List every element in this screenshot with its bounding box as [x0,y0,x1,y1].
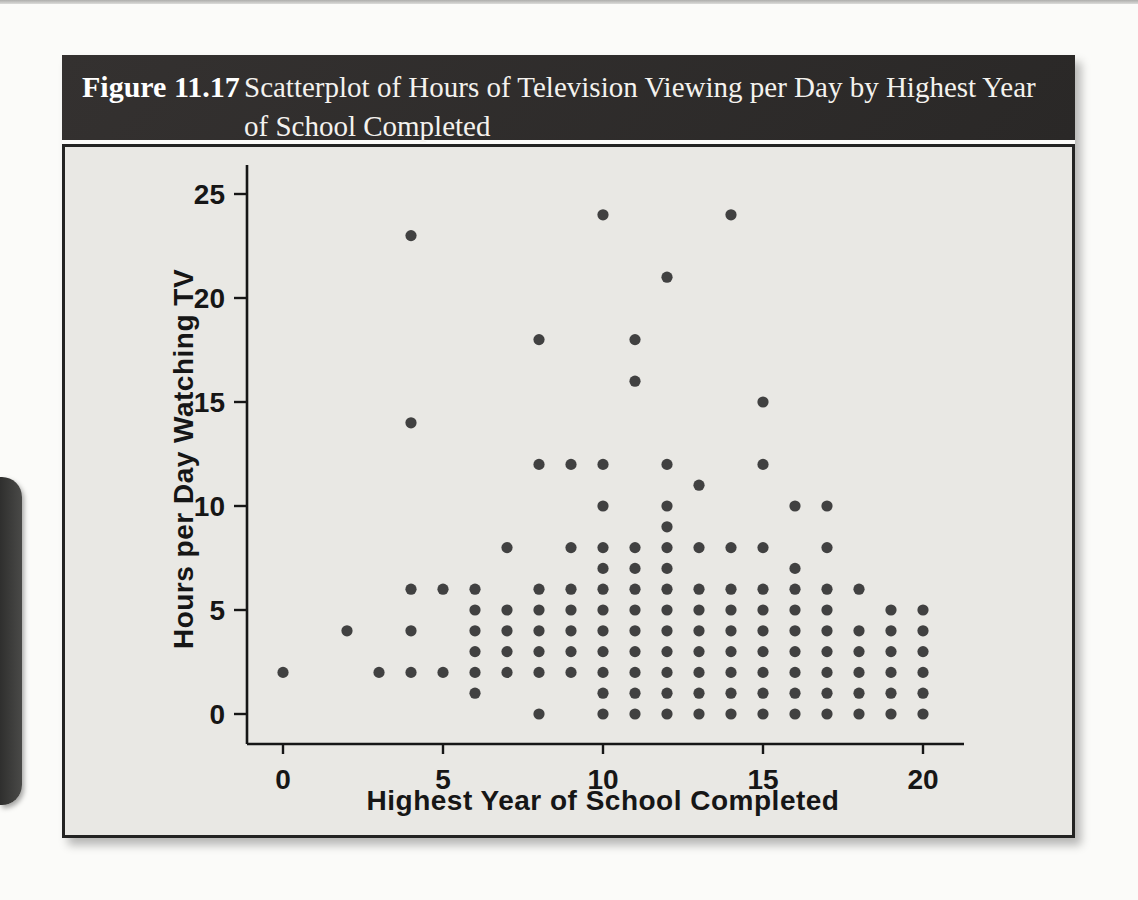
data-point [469,604,480,615]
y-tick-label: 25 [194,179,225,210]
data-point [885,708,896,719]
figure-panel: Figure 11.17 Scatterplot of Hours of Tel… [62,55,1075,838]
data-point [789,667,800,678]
data-point [917,708,928,719]
data-point [757,459,768,470]
chart-area: 051015202505101520 Highest Year of Schoo… [62,144,1075,838]
data-point [661,521,672,532]
data-point [277,667,288,678]
data-point [629,688,640,699]
data-point [757,542,768,553]
data-point [853,667,864,678]
data-point [533,604,544,615]
data-point [533,334,544,345]
data-point [469,646,480,657]
data-point [501,542,512,553]
x-tick-label: 20 [907,764,938,795]
figure-header: Figure 11.17 Scatterplot of Hours of Tel… [62,55,1075,140]
data-point [853,584,864,595]
scatterplot: 051015202505101520 [65,147,1072,835]
data-point [405,417,416,428]
data-point [661,646,672,657]
data-point [725,584,736,595]
data-point [565,459,576,470]
data-point [821,625,832,636]
data-point [661,708,672,719]
y-axis-title: Hours per Day Watching TV [168,247,200,671]
data-point [597,584,608,595]
data-point [789,646,800,657]
data-point [597,542,608,553]
data-point [821,646,832,657]
data-point [885,604,896,615]
data-point [533,646,544,657]
data-point [565,646,576,657]
data-point [405,625,416,636]
data-point [629,604,640,615]
y-tick-label: 5 [209,595,225,626]
data-point [661,542,672,553]
data-point [533,708,544,719]
data-point [629,708,640,719]
data-point [757,646,768,657]
data-point [661,604,672,615]
data-point [469,584,480,595]
page-edge-tab [0,477,22,805]
data-point [533,584,544,595]
data-point [629,584,640,595]
data-point [661,584,672,595]
data-point [629,376,640,387]
data-point [789,604,800,615]
data-point [693,542,704,553]
data-point [661,500,672,511]
data-point [597,646,608,657]
data-point [917,604,928,615]
data-point [757,604,768,615]
data-point [501,625,512,636]
data-point [789,625,800,636]
data-point [565,625,576,636]
data-point [405,584,416,595]
data-point [917,688,928,699]
data-point [565,604,576,615]
data-point [853,646,864,657]
data-point [789,500,800,511]
data-point [789,584,800,595]
data-point [725,209,736,220]
data-point [725,542,736,553]
data-point [757,584,768,595]
data-point [629,667,640,678]
x-tick-label: 0 [275,764,291,795]
data-point [629,542,640,553]
data-point [597,604,608,615]
page: { "figure": { "label": "Figure 11.17", "… [0,0,1138,900]
data-point [661,563,672,574]
data-point [469,625,480,636]
data-point [853,625,864,636]
data-point [597,563,608,574]
data-point [661,688,672,699]
data-point [597,625,608,636]
data-point [597,500,608,511]
data-point [693,667,704,678]
data-point [789,688,800,699]
data-point [725,688,736,699]
data-point [789,708,800,719]
data-point [629,334,640,345]
data-point [693,625,704,636]
data-point [565,542,576,553]
data-point [917,667,928,678]
data-point [661,667,672,678]
data-point [725,625,736,636]
page-top-edge [0,0,1138,4]
data-point [917,646,928,657]
data-point [597,209,608,220]
data-point [853,708,864,719]
figure-title: Scatterplot of Hours of Television Viewi… [244,68,1057,128]
data-point [725,708,736,719]
data-point [821,604,832,615]
data-point [693,584,704,595]
data-point [885,688,896,699]
data-point [597,459,608,470]
data-point [597,688,608,699]
